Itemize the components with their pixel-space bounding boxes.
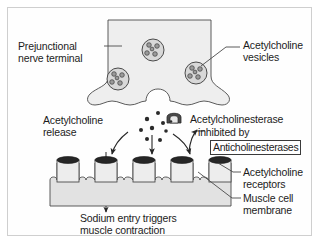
label-acetylcholinesterase: Acetylcholinesterase (190, 113, 283, 125)
acetylcholine-receptor-channel (171, 157, 193, 182)
acetylcholine-vesicle (142, 39, 164, 61)
acetylcholinesterase-icon (167, 113, 181, 123)
label-acetylcholine-vesicles: Acetylcholine vesicles (243, 39, 303, 64)
acetylcholine-molecule-dots (139, 111, 168, 142)
figure-neuromuscular-junction: Prejunctional nerve terminal Acetylcholi… (0, 0, 325, 250)
ach-to-receptor-left-arrow (112, 132, 128, 154)
label-sodium-entry: Sodium entry triggers muscle contraction (80, 212, 177, 237)
ach-to-enzyme-arrow (189, 130, 197, 152)
acetylcholine-receptor-channel (133, 157, 155, 182)
prejunctional-nerve-terminal-shape (88, 20, 230, 105)
label-muscle-cell-membrane: Muscle cell membrane (243, 192, 293, 217)
acetylcholine-vesicle (107, 68, 129, 90)
label-prejunctional-nerve-terminal: Prejunctional nerve terminal (18, 40, 82, 65)
label-inhibited-by: inhibited by (198, 126, 249, 138)
acetylcholine-vesicle (185, 62, 207, 84)
label-anticholinesterases-box: Anticholinesterases (210, 140, 301, 155)
label-acetylcholine-release: Acetylcholine release (43, 114, 103, 139)
label-acetylcholine-receptors: Acetylcholine receptors (243, 166, 303, 191)
acetylcholine-receptor-channel (95, 157, 117, 182)
ach-to-receptor-right-arrow (173, 134, 190, 154)
acetylcholine-receptor-channel (57, 157, 79, 182)
